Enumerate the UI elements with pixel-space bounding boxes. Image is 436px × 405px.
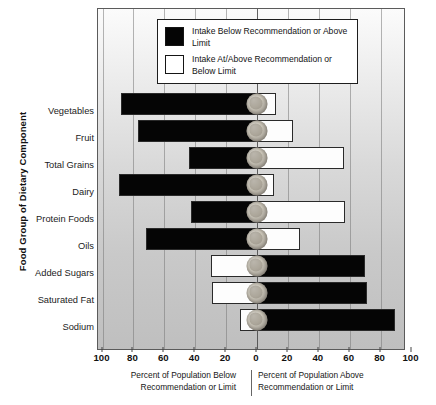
food-group-icon xyxy=(247,94,268,115)
legend-item: Intake Below Recommendation or Above Lim… xyxy=(165,26,350,49)
x-axis-tick-label: 80 xyxy=(374,352,385,363)
x-axis-tick-label: 20 xyxy=(220,352,231,363)
bar-row xyxy=(98,201,404,223)
x-axis-tick-mark xyxy=(225,347,226,352)
bar-row xyxy=(98,93,404,115)
food-group-icon xyxy=(247,175,268,196)
x-axis-captions: Percent of Population Below Recommendati… xyxy=(97,369,405,401)
category-label: Dairy xyxy=(14,187,94,197)
food-group-icon xyxy=(247,310,268,331)
x-axis-tick-row: 10080604020020406080100 xyxy=(97,352,405,368)
x-axis-tick-label: 60 xyxy=(343,352,354,363)
bar-segment-right xyxy=(257,201,345,223)
x-axis-tick-label: 20 xyxy=(282,352,293,363)
bar-segment-left xyxy=(138,120,257,142)
legend-swatch-white xyxy=(165,55,184,74)
category-label: Saturated Fat xyxy=(14,295,94,305)
x-axis-tick-mark xyxy=(348,347,349,352)
category-label-column: VegetablesFruitTotal GrainsDairyProtein … xyxy=(14,8,94,350)
bar-segment-right xyxy=(257,309,395,331)
x-axis-tick-label: 40 xyxy=(189,352,200,363)
x-axis-tick-label: 100 xyxy=(402,352,418,363)
category-label: Oils xyxy=(14,241,94,251)
x-axis-caption-right: Percent of Population Above Recommendati… xyxy=(252,369,398,394)
food-group-icon xyxy=(247,283,268,304)
bar-row xyxy=(98,309,404,331)
chart-legend: Intake Below Recommendation or Above Lim… xyxy=(157,19,358,84)
x-axis-tick-label: 0 xyxy=(253,352,258,363)
bar-segment-left xyxy=(121,93,257,115)
food-group-icon xyxy=(247,148,268,169)
category-label: Protein Foods xyxy=(14,214,94,224)
bar-segment-right xyxy=(257,282,367,304)
bar-row xyxy=(98,228,404,250)
x-axis-caption-left: Percent of Population Below Recommendati… xyxy=(97,369,243,394)
food-group-icon xyxy=(247,121,268,142)
x-axis-tick-label: 100 xyxy=(93,352,109,363)
bar-segment-left xyxy=(119,174,257,196)
x-axis-tick-label: 60 xyxy=(158,352,169,363)
x-axis-tick-mark xyxy=(132,347,133,352)
food-group-icon xyxy=(247,256,268,277)
x-axis-tick-mark xyxy=(163,347,164,352)
x-axis-tick-mark xyxy=(101,347,102,352)
food-group-icon xyxy=(247,229,268,250)
category-label: Vegetables xyxy=(14,106,94,116)
legend-item: Intake At/Above Recommendation or Below … xyxy=(165,54,350,77)
bar-row xyxy=(98,120,404,142)
bar-row xyxy=(98,147,404,169)
legend-label: Intake At/Above Recommendation or Below … xyxy=(192,54,350,77)
legend-swatch-black xyxy=(165,27,184,46)
category-label: Sodium xyxy=(14,322,94,332)
x-axis-tick-mark xyxy=(379,347,380,352)
x-axis-tick-mark xyxy=(286,347,287,352)
x-axis-tick-label: 40 xyxy=(312,352,323,363)
bar-segment-right xyxy=(257,255,365,277)
x-axis-tick-mark xyxy=(194,347,195,352)
category-label: Total Grains xyxy=(14,160,94,170)
category-label: Added Sugars xyxy=(14,268,94,278)
diverging-bar-chart: Food Group of Dietary Component Vegetabl… xyxy=(0,0,436,405)
legend-label: Intake Below Recommendation or Above Lim… xyxy=(192,26,350,49)
bar-segment-right xyxy=(257,147,344,169)
food-group-icon xyxy=(247,202,268,223)
bar-row xyxy=(98,282,404,304)
bar-segment-left xyxy=(146,228,257,250)
x-axis-tick-mark xyxy=(317,347,318,352)
x-axis-tick-mark xyxy=(256,347,257,352)
bar-row xyxy=(98,255,404,277)
bar-row xyxy=(98,174,404,196)
x-axis-tick-label: 80 xyxy=(127,352,138,363)
x-axis-tick-mark xyxy=(410,347,411,352)
category-label: Fruit xyxy=(14,133,94,143)
